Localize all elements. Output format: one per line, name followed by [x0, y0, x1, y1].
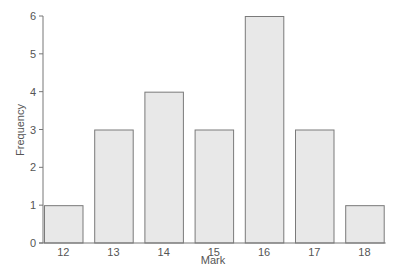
bar-chart: 0123456 12131415161718 Mark Frequency: [0, 0, 399, 275]
bar-14: [145, 92, 184, 243]
x-tick-label: 17: [308, 246, 320, 258]
x-tick-label: 16: [258, 246, 270, 258]
bar-17: [296, 130, 335, 243]
bar-13: [95, 130, 134, 243]
y-tick-label: 1: [30, 199, 36, 211]
bar-16: [245, 17, 283, 244]
x-tick-label: 13: [107, 246, 119, 258]
y-tick-label: 2: [30, 161, 36, 173]
bar-12: [45, 206, 84, 243]
y-tick-label: 6: [30, 10, 36, 22]
bars-group: [45, 17, 385, 244]
x-axis-title: Mark: [201, 254, 226, 266]
bar-15: [195, 130, 234, 243]
x-tick-label: 18: [358, 246, 370, 258]
y-ticks-group: 0123456: [30, 10, 43, 249]
y-tick-label: 5: [30, 48, 36, 60]
y-axis-title: Frequency: [14, 104, 26, 156]
y-tick-label: 0: [30, 237, 36, 249]
y-tick-label: 3: [30, 124, 36, 136]
x-tick-label: 14: [158, 246, 170, 258]
bar-18: [346, 206, 385, 243]
y-tick-label: 4: [30, 86, 36, 98]
x-tick-label: 12: [57, 246, 69, 258]
